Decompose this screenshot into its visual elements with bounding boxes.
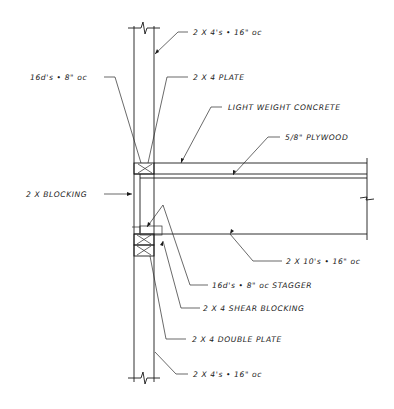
label-double-plate: 2 X 4 DOUBLE PLATE [192,335,282,344]
drawing-svg: 2 X 4's • 16" oc 16d's • 8" oc 2 X 4 PLA… [0,0,394,409]
floor-assembly [134,158,367,240]
break-line-top-icon [128,22,160,34]
break-line-bottom-icon [128,372,160,384]
section-detail-drawing: 2 X 4's • 16" oc 16d's • 8" oc 2 X 4 PLA… [0,0,394,409]
label-plywood: 5/8" PLYWOOD [285,133,348,142]
label-joists: 2 X 10's • 16" oc [286,257,361,266]
label-nails-stagger: 16d's • 8" oc STAGGER [212,281,312,290]
label-shear-blocking: 2 X 4 SHEAR BLOCKING [203,304,305,313]
label-studs-bottom: 2 X 4's • 16" oc [193,370,262,379]
upper-plate-block [134,163,154,174]
label-concrete: LIGHT WEIGHT CONCRETE [228,103,341,112]
label-blocking: 2 X BLOCKING [26,190,87,199]
label-nails-top: 16d's • 8" oc [30,73,87,82]
leader-lines [104,32,282,374]
wall-studs [134,26,154,382]
lower-blocking [132,226,162,256]
label-plate-top: 2 X 4 PLATE [193,73,245,82]
label-studs-top: 2 X 4's • 16" oc [193,28,262,37]
